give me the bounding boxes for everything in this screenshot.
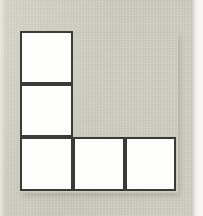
figure-canvas [0,0,203,216]
pentomino-figure [0,0,203,216]
square-bottom-middle [73,137,125,191]
square-bottom-left-corner [20,137,73,191]
square-bottom-right [125,137,176,191]
square-top-left [20,31,73,84]
square-middle-left [20,84,73,137]
